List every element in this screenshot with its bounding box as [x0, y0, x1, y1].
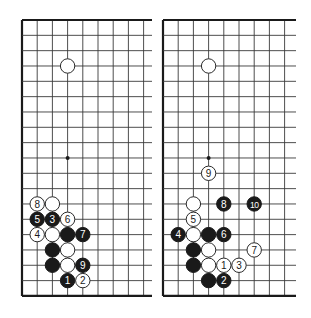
white-stone-icon: [60, 243, 74, 257]
white-stone-icon: [60, 59, 74, 73]
white-stone-icon: [186, 227, 200, 241]
white-stone-icon: [201, 258, 215, 272]
black-stone-icon: [45, 258, 59, 272]
white-stone-icon: [45, 227, 59, 241]
black-stone: [60, 227, 74, 241]
white-stone: [45, 227, 59, 241]
go-diagram-figure: 85364791298105467132: [0, 0, 311, 318]
black-stone: [201, 273, 215, 287]
black-stone-icon: [186, 258, 200, 272]
white-stone-icon: [201, 243, 215, 257]
move-number: 8: [34, 199, 40, 210]
black-stone-icon: [201, 227, 215, 241]
move-number: 7: [251, 245, 257, 256]
black-stone: [45, 258, 59, 272]
black-stone: 9: [76, 258, 90, 272]
black-stone-icon: [60, 227, 74, 241]
black-stone: 7: [76, 227, 90, 241]
move-number: 6: [65, 214, 71, 225]
white-stone: 7: [247, 243, 261, 257]
move-number: 4: [34, 229, 40, 240]
star-point: [207, 156, 211, 160]
go-boards-canvas: 85364791298105467132: [0, 0, 311, 318]
white-stone: 5: [186, 212, 200, 226]
move-number: 2: [221, 275, 227, 286]
move-number: 3: [50, 214, 56, 225]
white-stone: 1: [217, 258, 231, 272]
move-number: 7: [80, 229, 86, 240]
move-number: 10: [250, 200, 259, 210]
white-stone: 6: [60, 212, 74, 226]
move-number: 5: [191, 214, 197, 225]
black-stone: 6: [217, 227, 231, 241]
move-number: 4: [175, 229, 181, 240]
white-stone: [186, 227, 200, 241]
black-stone-icon: [201, 273, 215, 287]
white-stone: [186, 197, 200, 211]
black-stone: [186, 258, 200, 272]
black-stone: [186, 243, 200, 257]
white-stone: [60, 258, 74, 272]
black-stone: [201, 227, 215, 241]
white-stone: [45, 197, 59, 211]
black-stone: 8: [217, 197, 231, 211]
move-number: 5: [34, 214, 40, 225]
star-point: [66, 156, 70, 160]
move-number: 3: [236, 260, 242, 271]
white-stone: 2: [76, 273, 90, 287]
black-stone: 10: [247, 197, 261, 211]
black-stone-icon: [45, 243, 59, 257]
black-stone: 2: [217, 273, 231, 287]
move-number: 1: [65, 275, 71, 286]
move-number: 1: [221, 260, 227, 271]
white-stone: 3: [232, 258, 246, 272]
white-stone: 8: [30, 197, 44, 211]
white-stone: [60, 243, 74, 257]
white-stone: [60, 59, 74, 73]
black-stone: 5: [30, 212, 44, 226]
black-stone: 4: [171, 227, 185, 241]
black-stone-icon: [186, 243, 200, 257]
move-number: 8: [221, 199, 227, 210]
black-stone: 1: [60, 273, 74, 287]
white-stone: 4: [30, 227, 44, 241]
white-stone-icon: [186, 197, 200, 211]
move-number: 6: [221, 229, 227, 240]
move-number: 9: [206, 168, 212, 179]
move-number: 2: [80, 275, 86, 286]
white-stone-icon: [201, 59, 215, 73]
white-stone: [201, 243, 215, 257]
white-stone-icon: [45, 197, 59, 211]
diagram-right: 98105467132: [163, 20, 296, 296]
white-stone: [201, 59, 215, 73]
white-stone: 9: [201, 166, 215, 180]
white-stone: [201, 258, 215, 272]
move-number: 9: [80, 260, 86, 271]
white-stone-icon: [60, 258, 74, 272]
diagram-left: 853647912: [22, 20, 152, 296]
black-stone: [45, 243, 59, 257]
black-stone: 3: [45, 212, 59, 226]
